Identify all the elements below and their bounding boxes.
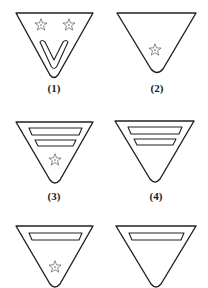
star-icon xyxy=(35,19,47,30)
badge-4-label: (4) xyxy=(150,190,163,203)
badge-2-outline xyxy=(117,13,196,73)
star-icon xyxy=(149,44,161,55)
badge-3: (3) xyxy=(16,122,93,203)
bar-1 xyxy=(129,233,184,240)
badge-6-outline xyxy=(116,226,196,287)
badge-1-outline xyxy=(16,13,93,78)
badge-1-label: (1) xyxy=(48,82,61,95)
star-icon xyxy=(49,261,61,272)
badge-2: (2) xyxy=(117,13,196,95)
bar-1 xyxy=(128,127,182,134)
bar-1 xyxy=(29,128,82,135)
bar-2 xyxy=(35,140,76,146)
badge-4-outline xyxy=(115,121,194,182)
star-icon xyxy=(49,154,61,165)
badge-5 xyxy=(16,226,93,287)
badge-6 xyxy=(116,226,196,287)
badge-2-label: (2) xyxy=(151,82,164,95)
badge-4: (4) xyxy=(115,121,194,203)
badge-3-label: (3) xyxy=(48,190,61,203)
badge-3-outline xyxy=(16,122,93,183)
bar-2 xyxy=(134,139,176,145)
badge-1: (1) xyxy=(16,13,93,95)
bar-1 xyxy=(29,233,82,240)
star-icon xyxy=(63,19,75,30)
insignia-diagram: (1) (2) (3) (4) xyxy=(0,0,208,288)
